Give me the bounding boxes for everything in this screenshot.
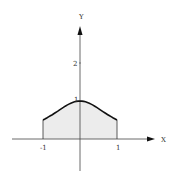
y-tick-label-1: 1 (74, 96, 78, 104)
y-tick-label-2: 2 (73, 60, 77, 68)
area-under-curve-chart: Y X 2 1 -1 1 (0, 0, 174, 180)
x-tick-label-neg1: -1 (40, 144, 47, 152)
y-axis-label: Y (78, 13, 84, 21)
y-axis-arrow-icon (78, 26, 83, 35)
x-axis-label: X (161, 136, 166, 144)
x-tick-label-1: 1 (116, 144, 120, 152)
x-axis-arrow-icon (147, 137, 155, 142)
